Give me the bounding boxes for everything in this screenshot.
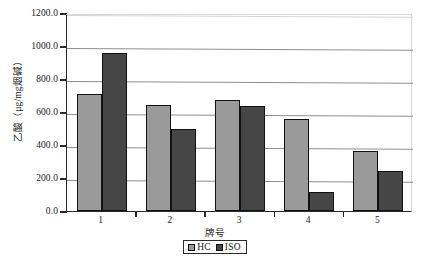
bar-iso-2	[171, 129, 196, 212]
x-tick-mark	[274, 212, 275, 217]
legend-item-iso[interactable]: ISO	[216, 242, 241, 252]
y-tick-label: 200.0	[36, 174, 58, 184]
y-tick-label: 800.0	[36, 75, 58, 85]
bar-iso-1	[102, 53, 127, 211]
bar-hc-1	[77, 94, 102, 211]
x-tick-mark	[204, 212, 205, 217]
bar-iso-3	[240, 106, 265, 211]
bar-chart: 乙酸（μg/mg烟碱） 1200.01000.0800.0600.0400.02…	[0, 0, 430, 260]
y-tick-label: 0.0	[46, 207, 58, 217]
gridline	[67, 15, 413, 18]
legend-swatch-hc	[188, 244, 195, 251]
bar-iso-5	[378, 171, 403, 211]
plot-area	[66, 14, 412, 212]
bar-hc-4	[284, 119, 309, 211]
legend-item-hc[interactable]: HC	[188, 242, 211, 252]
bar-hc-2	[146, 105, 171, 211]
y-tick-label: 400.0	[36, 141, 58, 151]
y-axis-labels: 1200.01000.0800.0600.0400.0200.00.0	[0, 0, 66, 226]
y-tick-label: 600.0	[36, 108, 58, 118]
legend-swatch-iso	[216, 244, 223, 251]
legend: HCISO	[0, 240, 430, 254]
legend-label: ISO	[225, 242, 241, 252]
x-tick-mark	[135, 212, 136, 217]
x-axis-title: 牌号	[0, 225, 430, 239]
y-tick-label: 1000.0	[31, 42, 58, 52]
y-tick-label: 1200.0	[31, 9, 58, 19]
legend-label: HC	[197, 242, 211, 252]
legend-box: HCISO	[183, 240, 247, 254]
x-tick-mark	[343, 212, 344, 217]
bar-hc-3	[215, 100, 240, 211]
bar-hc-5	[353, 151, 378, 211]
bar-iso-4	[309, 192, 334, 211]
gridline	[67, 48, 413, 51]
